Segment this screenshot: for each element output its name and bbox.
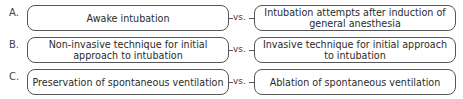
row-label: A. xyxy=(9,7,19,18)
comparison-row-c: C. Preservation of spontaneous ventilati… xyxy=(0,69,463,97)
left-box: Preservation of spontaneous ventilation xyxy=(27,69,229,95)
right-box: Invasive technique for initial approach … xyxy=(254,37,456,63)
vs-label: vs. xyxy=(233,76,246,86)
vs-label: vs. xyxy=(233,44,246,54)
row-label: B. xyxy=(9,39,19,50)
vs-label: vs. xyxy=(233,12,246,22)
row-label: C. xyxy=(9,71,19,82)
comparison-row-b: B. Non-invasive technique for initial ap… xyxy=(0,37,463,65)
left-box: Awake intubation xyxy=(27,5,229,31)
left-box: Non-invasive technique for initial appro… xyxy=(27,37,229,63)
comparison-row-a: A. Awake intubation vs. Intubation attem… xyxy=(0,5,463,33)
right-box: Ablation of spontaneous ventilation xyxy=(254,69,456,95)
right-box: Intubation attempts after induction of g… xyxy=(254,5,456,31)
